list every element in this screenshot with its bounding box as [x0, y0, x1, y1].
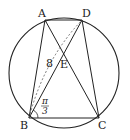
label-c: C — [98, 119, 106, 132]
angle-denominator: 3 — [42, 106, 48, 116]
geometry-diagram: A D B C E 8 π 3 — [0, 0, 130, 140]
label-d: D — [82, 7, 91, 20]
angle-numerator: π — [41, 96, 49, 106]
label-b: B — [20, 119, 28, 132]
angle-arc-b — [33, 110, 38, 118]
circumcircle — [9, 18, 119, 128]
length-label: 8 — [46, 57, 53, 70]
label-e: E — [60, 58, 68, 71]
label-a: A — [37, 7, 47, 20]
